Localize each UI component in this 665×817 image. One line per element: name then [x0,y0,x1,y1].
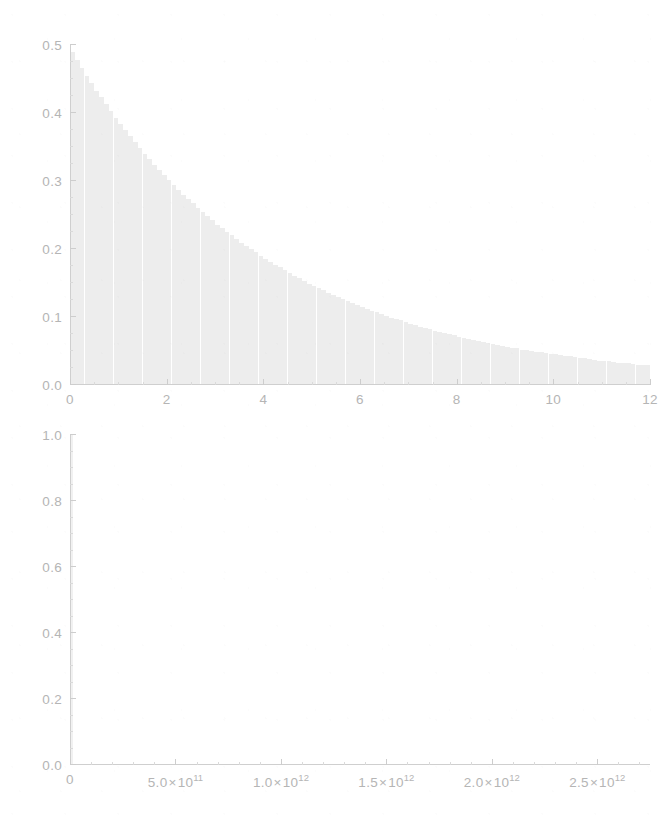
y-axis-minor-tick [70,197,73,198]
y-axis-minor-tick [70,231,73,232]
y-axis-tick-label: 0.6 [42,560,62,575]
y-axis-minor-tick [70,715,73,716]
x-axis-minor-tick [433,382,434,385]
y-axis-tick-label: 0.0 [42,378,62,393]
y-axis-tick [70,384,76,385]
y-axis-tick-label: 0.3 [42,174,62,189]
x-axis-minor-tick [288,382,289,385]
y-axis-tick-label: 0.2 [42,692,62,707]
x-axis-minor-tick [626,382,627,385]
x-axis-minor-tick [215,382,216,385]
x-axis-minor-tick [312,382,313,385]
x-axis-minor-tick [239,382,240,385]
y-axis-minor-tick [70,146,73,147]
x-axis-minor-tick [218,762,219,765]
y-axis-tick [70,316,76,317]
x-axis-tick [650,379,651,385]
plot-area-top [70,45,650,385]
x-axis-tick-label: 2.0×1012 [464,772,520,790]
x-axis-minor-tick [112,762,113,765]
x-axis-tick-label: 2 [163,392,171,407]
x-axis-minor-tick [191,382,192,385]
x-axis-minor-tick [239,762,240,765]
x-axis-tick-label: 6 [356,392,364,407]
x-axis-minor-tick [513,762,514,765]
x-axis-tick [386,759,387,765]
x-axis-minor-tick [576,762,577,765]
y-axis-minor-tick [70,731,73,732]
x-axis-minor-tick [143,382,144,385]
x-axis-tick-label: 4 [259,392,267,407]
x-axis-minor-tick [118,382,119,385]
histogram-bars-bottom [70,435,650,765]
y-axis-minor-tick [70,616,73,617]
y-axis-tick-label: 0.2 [42,242,62,257]
y-axis-line-bottom [70,435,71,765]
y-axis-tick [70,566,76,567]
x-axis-minor-tick [450,762,451,765]
x-axis-minor-tick [407,762,408,765]
x-axis-minor-tick [91,762,92,765]
y-axis-tick [70,434,76,435]
y-axis-minor-tick [70,95,73,96]
x-axis-line-bottom [70,764,650,765]
plot-area-bottom [70,435,650,765]
x-axis-minor-tick [302,762,303,765]
x-axis-minor-tick [578,382,579,385]
x-axis-minor-tick [505,382,506,385]
x-axis-minor-tick [94,382,95,385]
y-axis-minor-tick [70,682,73,683]
y-axis-minor-tick [70,665,73,666]
x-axis-minor-tick [602,382,603,385]
chart-panel-bottom: 05.0×10111.0×10121.5×10122.0×10122.5×101… [0,410,665,817]
y-axis-minor-tick [70,367,73,368]
x-axis-minor-tick [618,762,619,765]
y-axis-tick [70,632,76,633]
y-axis-tick-label: 0.8 [42,494,62,509]
x-axis-tick-label: 12 [642,392,658,407]
y-axis-minor-tick [70,649,73,650]
x-axis-tick-label: 1.5×1012 [358,772,414,790]
x-axis-minor-tick [471,762,472,765]
y-axis-tick [70,248,76,249]
y-axis-minor-tick [70,350,73,351]
x-axis-minor-tick [534,762,535,765]
x-axis-tick-label: 5.0×1011 [148,772,203,790]
x-axis-minor-tick [336,382,337,385]
y-axis-tick [70,698,76,699]
y-axis-minor-tick [70,451,73,452]
x-axis-tick [263,379,264,385]
x-axis-tick [553,379,554,385]
y-axis-tick-label: 0.4 [42,626,62,641]
y-axis-tick-label: 0.0 [42,758,62,773]
y-axis-minor-tick [70,533,73,534]
y-axis-line-top [70,45,71,385]
y-axis-tick [70,44,76,45]
x-axis-minor-tick [197,762,198,765]
x-axis-tick-label: 2.5×1012 [569,772,625,790]
y-axis-minor-tick [70,467,73,468]
x-axis-minor-tick [365,762,366,765]
x-axis-tick-label: 0 [66,392,74,407]
y-axis-minor-tick [70,129,73,130]
x-axis-tick [597,759,598,765]
y-axis-tick-label: 0.4 [42,106,62,121]
y-axis-tick-label: 0.1 [42,310,62,325]
x-axis-tick [281,759,282,765]
x-axis-minor-tick [429,762,430,765]
chart-panel-top: 0246810120.00.10.20.30.40.5 [0,0,665,410]
x-axis-minor-tick [555,762,556,765]
histogram-bars-top [70,45,650,385]
y-axis-tick [70,112,76,113]
x-axis-tick [175,759,176,765]
x-axis-minor-tick [529,382,530,385]
x-axis-tick-label: 1.0×1012 [253,772,309,790]
y-axis-tick [70,500,76,501]
y-axis-minor-tick [70,484,73,485]
y-axis-minor-tick [70,550,73,551]
x-axis-minor-tick [384,382,385,385]
y-axis-minor-tick [70,333,73,334]
x-axis-tick [492,759,493,765]
y-axis-minor-tick [70,748,73,749]
x-axis-tick [360,379,361,385]
